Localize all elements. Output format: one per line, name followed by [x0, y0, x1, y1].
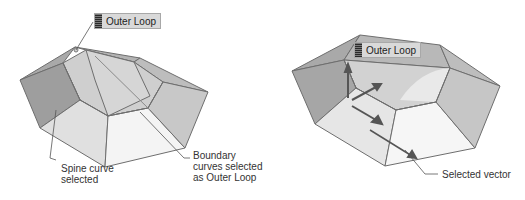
outer-loop-badge-right: Outer Loop — [354, 42, 421, 58]
callout-spine-curve: Spine curve selected — [61, 163, 114, 185]
left-loft-shape — [20, 47, 208, 167]
callout-boundary-curves: Boundary curves selected as Outer Loop — [193, 150, 262, 183]
callout-selected-vector: Selected vector — [442, 169, 511, 180]
badge-label: Outer Loop — [362, 45, 420, 56]
grip-icon — [95, 14, 102, 28]
badge-label: Outer Loop — [102, 16, 160, 27]
grip-icon — [355, 43, 362, 57]
outer-loop-badge-left: Outer Loop — [94, 13, 161, 29]
